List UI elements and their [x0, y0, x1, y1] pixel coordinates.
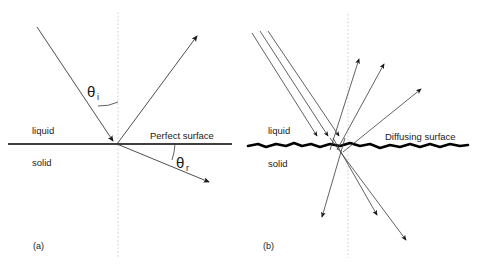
- refracted-ray-a: [117, 144, 209, 182]
- panel-b-caption: (b): [263, 241, 274, 251]
- incident-ray-a: [37, 27, 113, 141]
- liquid-label-a: liquid: [32, 125, 54, 136]
- perfect-surface-label: Perfect surface: [150, 130, 214, 141]
- incident-ray-b-1: [252, 33, 317, 136]
- scattered-down-ray-b-3: [330, 138, 406, 240]
- panel-a-caption: (a): [33, 241, 44, 251]
- theta-incident-subscript: i: [97, 92, 99, 102]
- solid-label-a: solid: [32, 157, 52, 168]
- theta-refracted-symbol: θ: [176, 154, 184, 171]
- scattered-down-ray-b-1: [322, 138, 345, 217]
- angle-arc-incident: [98, 102, 118, 106]
- theta-refracted-subscript: r: [186, 163, 189, 173]
- solid-label-b: solid: [268, 158, 288, 169]
- angle-arc-refracted: [172, 144, 175, 160]
- liquid-label-b: liquid: [268, 125, 290, 136]
- scattered-up-ray-b-3: [343, 89, 421, 152]
- incident-ray-b-2: [260, 31, 328, 136]
- incident-ray-b-3: [268, 31, 339, 136]
- panel-a: θ i θ r liquid solid Perfect surface (a): [8, 12, 232, 258]
- theta-incident-symbol: θ: [87, 83, 95, 100]
- scattered-down-ray-b-2: [333, 138, 377, 215]
- reflection-diagram: θ i θ r liquid solid Perfect surface (a)…: [0, 0, 477, 271]
- diffusing-surface-label: Diffusing surface: [385, 131, 456, 142]
- reflected-ray-a: [117, 36, 197, 144]
- surface-line-diffusing: [248, 143, 468, 148]
- panel-b: liquid solid Diffusing surface (b): [248, 14, 468, 258]
